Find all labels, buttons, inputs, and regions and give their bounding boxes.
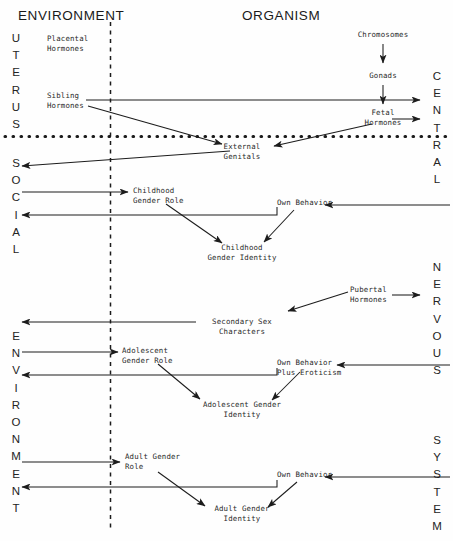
arrow-own-behavior-adolescent-to-environment bbox=[22, 368, 277, 375]
edge-letter: E bbox=[9, 466, 23, 483]
edge-letter: L bbox=[9, 241, 23, 258]
edge-letter: O bbox=[9, 172, 23, 189]
edge-letter: T bbox=[9, 500, 23, 517]
arrow-adult-role-to-adult-identity bbox=[158, 472, 205, 506]
edge-letter: R bbox=[9, 397, 23, 414]
edge-letter: R bbox=[430, 293, 444, 310]
node-secondary-sex-characters: Secondary Sex Characters bbox=[212, 317, 272, 336]
arrow-own-behavior-child-to-childhood-identity bbox=[264, 210, 294, 242]
edge-letter: N bbox=[9, 431, 23, 448]
edge-letter: S bbox=[430, 362, 444, 379]
arrow-own-behavior-child-to-social bbox=[22, 207, 277, 215]
node-own-behavior-adult: Own Behavior bbox=[277, 470, 332, 480]
node-pubertal-hormones: Pubertal Hormones bbox=[350, 285, 387, 304]
edge-label-system: SYSTEM bbox=[430, 432, 444, 535]
node-sibling-hormones: Sibling Hormones bbox=[47, 91, 84, 110]
edge-letter: S bbox=[430, 432, 444, 449]
node-childhood-gender-identity: Childhood Gender Identity bbox=[208, 243, 277, 262]
arrow-adolescent-role-to-adolescent-identity bbox=[158, 364, 200, 399]
edge-letter: O bbox=[9, 414, 23, 431]
edge-label-nervous: NERVOUS bbox=[430, 259, 444, 379]
arrow-external-genitals-to-social bbox=[22, 151, 230, 166]
edge-letter: T bbox=[430, 120, 444, 137]
edge-letter: A bbox=[9, 224, 23, 241]
edge-label-uterus: UTERUS bbox=[9, 30, 23, 133]
edge-letter: V bbox=[430, 311, 444, 328]
edge-letter: S bbox=[430, 466, 444, 483]
edge-letter: M bbox=[9, 448, 23, 465]
edge-letter: C bbox=[430, 68, 444, 85]
arrow-own-behavior-adult-to-environment bbox=[22, 480, 277, 487]
node-adolescent-gender-role: Adolescent Gender Role bbox=[122, 346, 173, 365]
edge-letter: T bbox=[9, 47, 23, 64]
node-adolescent-gender-identity: Adolescent Gender Identity bbox=[203, 400, 281, 419]
edge-letter: T bbox=[430, 484, 444, 501]
arrow-pubertal-hormones-to-secondary-sex bbox=[288, 292, 348, 311]
edge-letter: U bbox=[9, 99, 23, 116]
edge-letter: O bbox=[430, 328, 444, 345]
edge-letter: R bbox=[430, 137, 444, 154]
edge-letter: R bbox=[9, 82, 23, 99]
edge-letter: V bbox=[9, 362, 23, 379]
node-adult-gender-identity: Adult Gender Identity bbox=[214, 504, 269, 523]
arrow-fetal-hormones-to-external-genitals bbox=[274, 124, 372, 146]
edge-letter: S bbox=[9, 155, 23, 172]
diagram-canvas: ENVIRONMENT ORGANISM UTERUS SOCIAL ENVIR… bbox=[0, 0, 453, 541]
edge-letter: N bbox=[430, 259, 444, 276]
edge-letter: E bbox=[430, 276, 444, 293]
edge-label-environment: ENVIRONMENT bbox=[9, 328, 23, 517]
edge-label-central: CENTRAL bbox=[430, 68, 444, 188]
edge-letter: A bbox=[430, 154, 444, 171]
edge-letter: N bbox=[430, 102, 444, 119]
node-own-behavior-child: Own Behavior bbox=[277, 198, 332, 208]
node-fetal-hormones: Fetal Hormones bbox=[365, 108, 402, 127]
edge-letter: E bbox=[9, 64, 23, 81]
edge-letter: E bbox=[430, 501, 444, 518]
arrow-childhood-role-to-childhood-identity bbox=[166, 204, 222, 243]
header-environment: ENVIRONMENT bbox=[18, 8, 124, 23]
edge-letter: N bbox=[9, 483, 23, 500]
edge-letter: U bbox=[9, 30, 23, 47]
node-chromosomes: Chromosomes bbox=[358, 30, 409, 40]
node-own-behavior-adolescent: Own Behavior Plus Eroticism bbox=[277, 358, 341, 377]
arrow-sibling-hormones-to-external-genitals bbox=[88, 106, 222, 144]
node-placental-hormones: Placental Hormones bbox=[47, 34, 88, 53]
edge-letter: E bbox=[430, 85, 444, 102]
connector-overlay bbox=[0, 0, 453, 541]
arrow-own-behavior-adult-to-adult-identity bbox=[268, 482, 297, 507]
edge-letter: I bbox=[9, 207, 23, 224]
edge-letter: U bbox=[430, 345, 444, 362]
node-adult-gender-role: Adult Gender Role bbox=[125, 452, 180, 471]
edge-letter: Y bbox=[430, 449, 444, 466]
edge-letter: I bbox=[9, 380, 23, 397]
edge-label-social: SOCIAL bbox=[9, 155, 23, 258]
node-gonads: Gonads bbox=[369, 71, 397, 81]
node-external-genitals: External Genitals bbox=[224, 142, 261, 161]
edge-letter: L bbox=[430, 171, 444, 188]
edge-letter: S bbox=[9, 116, 23, 133]
edge-letter: C bbox=[9, 189, 23, 206]
edge-letter: N bbox=[9, 345, 23, 362]
header-organism: ORGANISM bbox=[242, 8, 320, 23]
node-childhood-gender-role: Childhood Gender Role bbox=[133, 186, 184, 205]
edge-letter: E bbox=[9, 328, 23, 345]
edge-letter: M bbox=[430, 518, 444, 535]
